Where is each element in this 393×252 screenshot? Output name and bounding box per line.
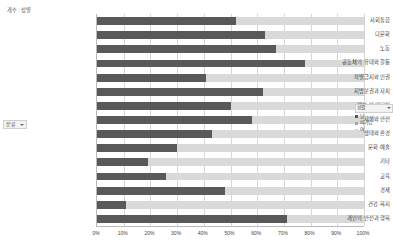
legend-label: 여 (360, 128, 364, 133)
chevron-down-icon (387, 107, 391, 109)
y-axis-label: 문화·예술 (301, 145, 393, 150)
bar-segment[interactable] (97, 17, 236, 25)
x-axis-tick: 90% (331, 230, 341, 236)
legend-swatch (355, 129, 358, 132)
x-axis-tick: 30% (171, 230, 181, 236)
bar-segment[interactable] (97, 60, 305, 68)
x-axis-tick: 70% (278, 230, 288, 236)
bar-segment[interactable] (97, 116, 252, 124)
y-axis-label: 기타 (301, 159, 393, 164)
x-axis-tick: 60% (251, 230, 261, 236)
legend-label: 남 (360, 115, 364, 120)
x-axis-tick: 0% (92, 230, 99, 236)
legend-items: 남미기입여 (355, 115, 393, 133)
legend-item[interactable]: 여 (355, 128, 393, 133)
x-axis-tick: 10% (118, 230, 128, 236)
legend-label: 미기입 (360, 121, 372, 126)
bar-segment[interactable] (97, 158, 148, 166)
x-axis-tick: 100% (357, 230, 370, 236)
bar-segment[interactable] (97, 31, 265, 39)
y-axis-label: 공동체의 유대와 갈등 (301, 60, 393, 65)
bar-segment[interactable] (97, 88, 263, 96)
bar-segment[interactable] (97, 74, 206, 82)
legend-swatch (355, 122, 358, 125)
bar-segment[interactable] (97, 102, 231, 110)
bar-segment[interactable] (97, 45, 276, 53)
bar-segment[interactable] (97, 215, 287, 223)
bar-segment[interactable] (97, 173, 166, 181)
x-axis: 0%10%20%30%40%50%60%70%80%90%100% (96, 230, 363, 242)
y-axis-label: 다문화 (301, 32, 393, 37)
y-axis-label: 지방분권과 자치 (301, 89, 393, 94)
x-axis-tick: 50% (224, 230, 234, 236)
y-axis-label: 노동 (301, 46, 393, 51)
x-axis-tick: 20% (144, 230, 154, 236)
y-axis-label: 차별금지와 인권 (301, 75, 393, 80)
legend-swatch (355, 115, 358, 118)
bar-segment[interactable] (97, 201, 126, 209)
legend-item[interactable]: 미기입 (355, 121, 393, 126)
legend-filter-button[interactable]: 성별 (355, 104, 393, 113)
y-axis-label: 개인의 안전과 행복 (301, 216, 393, 221)
legend-item[interactable]: 남 (355, 115, 393, 120)
x-axis-tick: 80% (305, 230, 315, 236)
bar-segment[interactable] (97, 144, 177, 152)
chart-container: 사회통합다문화노동공동체의 유대와 갈등차별금지와 인권지방분권과 자치정보 및… (0, 12, 393, 240)
legend: 성별 남미기입여 (355, 104, 393, 133)
y-axis-label: 경제 (301, 188, 393, 193)
bar-segment[interactable] (97, 187, 225, 195)
y-axis-label: 교육 (301, 174, 393, 179)
legend-title-label: 성별 (357, 106, 365, 111)
y-axis-label: 건강·복지 (301, 202, 393, 207)
bar-segment[interactable] (97, 130, 212, 138)
y-axis-label: 사회통합 (301, 18, 393, 23)
x-axis-tick: 40% (198, 230, 208, 236)
